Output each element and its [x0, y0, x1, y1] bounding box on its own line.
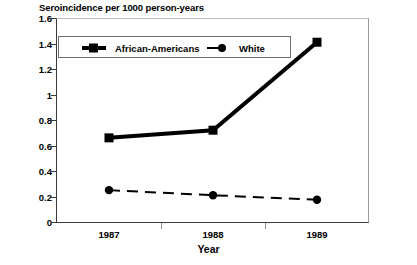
legend: African-Americans White — [58, 36, 291, 58]
y-axis-tick-mark — [51, 18, 56, 19]
x-axis-tick-label: 1989 — [306, 229, 327, 240]
y-axis-tick-mark — [51, 69, 56, 70]
square-marker-icon — [81, 42, 107, 54]
x-axis-tick-mark — [265, 223, 266, 229]
legend-item-african-americans: African-Americans — [81, 37, 199, 59]
x-axis-tick-label: 1987 — [98, 229, 119, 240]
y-axis-tick-mark — [51, 222, 56, 223]
y-axis-tick-labels: 00.20.40.60.811.21.41.6 — [20, 18, 52, 223]
circle-marker-icon — [205, 42, 231, 54]
y-axis-tick-mark — [51, 44, 56, 45]
x-axis-title: Year — [0, 243, 417, 255]
chart-title: Seroincidence per 1000 person-years — [39, 2, 204, 13]
legend-label-white: White — [239, 43, 265, 54]
y-axis-tick-mark — [51, 171, 56, 172]
y-axis-tick-mark — [51, 146, 56, 147]
x-axis-tick-label: 1988 — [202, 229, 223, 240]
y-axis-tick-mark — [51, 197, 56, 198]
y-axis-tick-mark — [51, 120, 56, 121]
chart-container: Seroincidence per 1000 person-years 00.2… — [0, 0, 417, 265]
x-axis-tick-mark — [161, 223, 162, 229]
legend-item-white: White — [205, 37, 265, 59]
y-axis-tick-mark — [51, 95, 56, 96]
legend-label-african-americans: African-Americans — [115, 43, 199, 54]
